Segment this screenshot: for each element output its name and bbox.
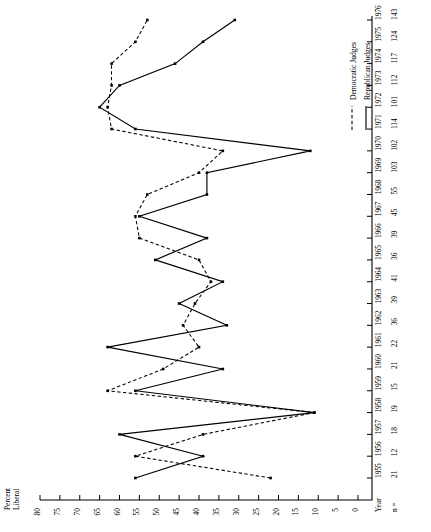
percent-axis-title-line2: Liberal <box>12 489 21 510</box>
percent-tick-label: 70 <box>73 508 82 516</box>
percent-tick-label: 40 <box>192 508 201 516</box>
year-tick-label: 1968 <box>374 179 383 194</box>
n-value-label: 39 <box>390 230 399 238</box>
chart-axis-labels: 8075706560555045403530252015105019552119… <box>3 5 399 515</box>
chart-axes <box>40 16 372 500</box>
data-point <box>206 171 209 174</box>
chart-container: Democratic JudgesRepublican Judges 80757… <box>0 0 431 532</box>
data-point <box>313 411 316 414</box>
n-value-label: 39 <box>390 296 399 304</box>
data-point <box>222 280 225 283</box>
percent-tick-label: 5 <box>331 508 340 512</box>
data-point <box>198 346 201 349</box>
data-point <box>134 215 137 218</box>
percent-tick-label: 15 <box>291 508 300 516</box>
data-point <box>222 368 225 371</box>
year-tick-label: 1967 <box>374 201 383 216</box>
n-value-label: 124 <box>390 30 399 41</box>
percent-axis-title-line1: Percent <box>3 487 12 510</box>
year-tick-label: 1961 <box>374 332 383 347</box>
percent-tick-label: 10 <box>311 508 320 516</box>
chart-svg: Democratic JudgesRepublican Judges 80757… <box>0 0 431 532</box>
data-point <box>234 19 237 22</box>
data-point <box>118 84 121 87</box>
percent-tick-label: 55 <box>132 508 141 516</box>
n-value-label: 15 <box>390 383 399 391</box>
data-point <box>134 455 137 458</box>
year-tick-label: 1970 <box>374 136 383 151</box>
year-tick-label: 1963 <box>374 288 383 303</box>
data-point <box>198 259 201 262</box>
year-tick-label: 1955 <box>374 463 383 478</box>
data-point <box>202 455 205 458</box>
year-tick-label: 1969 <box>374 158 383 173</box>
percent-tick-label: 80 <box>33 508 42 516</box>
percent-tick-label: 45 <box>172 508 181 516</box>
n-value-label: 21 <box>390 361 399 369</box>
data-point <box>162 368 165 371</box>
data-point <box>134 128 137 131</box>
data-point <box>206 237 209 240</box>
year-tick-label: 1957 <box>374 419 383 434</box>
data-point <box>138 215 141 218</box>
n-axis-title: n = <box>390 502 399 512</box>
n-value-label: 45 <box>390 209 399 217</box>
percent-tick-label: 20 <box>272 508 281 516</box>
data-point <box>269 477 272 480</box>
year-tick-label: 1966 <box>374 223 383 238</box>
data-point <box>134 477 137 480</box>
year-tick-label: 1962 <box>374 310 383 325</box>
data-point <box>110 84 113 87</box>
series-line-republican-judges <box>100 20 315 478</box>
data-point <box>202 41 205 44</box>
year-tick-label: 1974 <box>374 49 383 64</box>
chart-legend: Democratic JudgesRepublican Judges <box>349 42 372 130</box>
year-tick-label: 1956 <box>374 441 383 456</box>
data-point <box>110 62 113 65</box>
data-point <box>146 193 149 196</box>
legend-label: Republican Judges <box>363 43 372 100</box>
data-point <box>106 106 109 109</box>
n-value-label: 21 <box>390 470 399 478</box>
data-point <box>106 346 109 349</box>
data-point <box>110 128 113 131</box>
data-point <box>134 390 137 393</box>
data-point <box>98 106 101 109</box>
n-value-label: 101 <box>390 96 399 107</box>
year-tick-label: 1959 <box>374 376 383 391</box>
data-point <box>138 237 141 240</box>
n-value-label: 112 <box>390 74 399 85</box>
percent-tick-label: 25 <box>252 508 261 516</box>
year-tick-label: 1960 <box>374 354 383 369</box>
data-point <box>206 193 209 196</box>
percent-tick-label: 50 <box>152 508 161 516</box>
n-value-label: 12 <box>390 448 399 456</box>
n-value-label: 22 <box>390 339 399 347</box>
data-point <box>194 302 197 305</box>
percent-tick-label: 65 <box>93 508 102 516</box>
percent-tick-label: 0 <box>351 508 360 512</box>
n-value-label: 36 <box>390 252 399 260</box>
data-point <box>134 41 137 44</box>
data-point <box>154 259 157 262</box>
n-value-label: 19 <box>390 405 399 413</box>
data-point <box>182 324 185 327</box>
n-value-label: 102 <box>390 139 399 150</box>
n-value-label: 36 <box>390 318 399 326</box>
year-tick-label: 1972 <box>374 92 383 107</box>
data-point <box>106 390 109 393</box>
data-point <box>178 302 181 305</box>
year-tick-label: 1975 <box>374 27 383 42</box>
data-point <box>202 433 205 436</box>
n-value-label: 55 <box>390 187 399 195</box>
n-value-label: 18 <box>390 427 399 435</box>
data-point <box>226 324 229 327</box>
percent-tick-label: 75 <box>53 508 62 516</box>
n-value-label: 103 <box>390 161 399 172</box>
year-tick-label: 1973 <box>374 70 383 85</box>
year-tick-label: 1971 <box>374 114 383 129</box>
year-tick-label: 1964 <box>374 267 383 282</box>
n-value-label: 41 <box>390 274 399 282</box>
n-value-label: 114 <box>390 118 399 129</box>
data-point <box>222 150 225 153</box>
